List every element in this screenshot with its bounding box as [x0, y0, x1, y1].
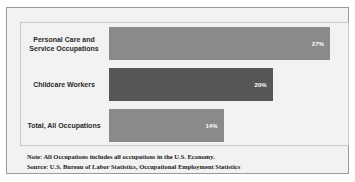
bar-category-label: Personal Care and Service Occupations: [23, 27, 105, 60]
bar-category-label: Childcare Workers: [23, 68, 105, 101]
bar-value-label: 20%: [255, 82, 267, 88]
bar-value-label: 27%: [312, 41, 324, 47]
bar-childcare-workers[interactable]: 20%: [109, 68, 273, 101]
bar-row: Childcare Workers 20%: [21, 68, 348, 101]
bar-category-label-line1: Personal Care and: [33, 36, 94, 43]
bar-category-label-line1: Total, All Occupations: [27, 122, 100, 129]
footnote-note: Note: All Occupations includes all occup…: [27, 152, 327, 162]
footnote-source: Source: U.S. Bureau of Labor Statistics,…: [27, 162, 327, 172]
cropped-title-remnant: [0, 0, 355, 6]
bar-category-label-line1: Childcare Workers: [33, 81, 95, 88]
plot-area: Personal Care and Service Occupations 27…: [20, 22, 349, 146]
footnotes: Note: All Occupations includes all occup…: [27, 152, 327, 171]
bar-row: Total, All Occupations 14%: [21, 109, 348, 142]
bar-personal-care-and-service-occupations[interactable]: 27%: [109, 27, 330, 60]
bar-category-label-line2: Service Occupations: [29, 45, 98, 52]
chart-frame: Personal Care and Service Occupations 27…: [6, 7, 349, 174]
bar-row: Personal Care and Service Occupations 27…: [21, 27, 348, 60]
bar-total-all-occupations[interactable]: 14%: [109, 109, 224, 142]
bar-value-label: 14%: [205, 123, 217, 129]
bar-category-label: Total, All Occupations: [23, 109, 105, 142]
